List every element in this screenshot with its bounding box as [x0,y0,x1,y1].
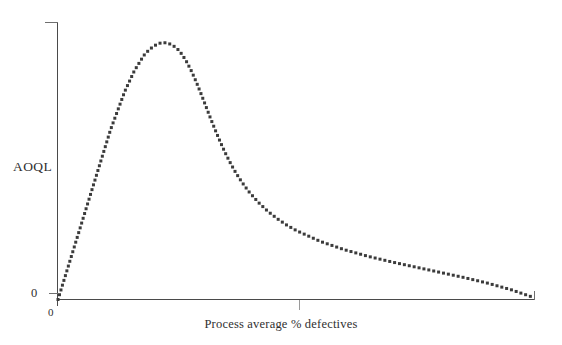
curve-dot [316,239,319,242]
curve-dot [437,271,440,274]
curve-dot [303,233,306,236]
curve-dot [101,155,104,158]
curve-dot [345,249,348,252]
curve-dot [120,98,123,101]
curve-dot [364,254,367,257]
axes-group [45,22,535,310]
curve-dot [307,235,310,238]
curve-dot [196,83,199,86]
curve-dot [74,241,77,244]
curve-dot [432,269,435,272]
curve-dot [104,145,107,148]
curve-dot [146,50,149,53]
curve-dot [335,246,338,249]
curve-dot [135,66,138,69]
curve-dot [192,74,195,77]
curve-dot [126,84,129,87]
curve-dot [393,261,396,264]
curve-dot [128,80,131,83]
curve-dot [112,121,115,124]
curve-dot [98,164,101,167]
curve-dot [224,152,227,155]
curve-dot [65,269,68,272]
curve-dot [85,207,88,210]
curve-dot [349,250,352,253]
curve-dot [115,112,118,115]
curve-dot [340,247,343,250]
curve-dot [248,190,251,193]
curve-dot [519,292,522,295]
curve-dot [96,169,99,172]
curve-dot [107,136,110,139]
curve-dot [80,222,83,225]
curve-dot [289,226,292,229]
curve-dot [119,103,122,106]
curve-dot [486,282,489,285]
curve-dot [61,284,64,287]
curve-dot [187,65,190,68]
curve-dot [374,257,377,260]
curve-dot [245,187,248,190]
curve-dot [285,223,288,226]
chart-canvas: AOQL 0 0 Process average % defectives [0,0,562,345]
aoql-curve-plot [0,0,562,345]
curve-dot [408,264,411,267]
curve-dot [495,284,498,287]
curve-dot [218,139,221,142]
curve-dot [379,258,382,261]
curve-dot [108,131,111,134]
curve-dot [185,60,188,63]
curve-dot [226,157,229,160]
curve-dot [242,182,245,185]
curve-dot [190,69,193,72]
curve-dot [330,244,333,247]
curve-dot [102,150,105,153]
curve-dot [273,215,276,218]
curve-dot [462,276,465,279]
curve-dot [254,198,257,201]
curve-dot [76,236,79,239]
curve-dot [95,174,98,177]
curve-dot [208,115,211,118]
curve-dot [442,272,445,275]
curve-dot [457,275,460,278]
curve-dot [83,212,86,215]
curve-dot [199,92,202,95]
curve-dot [500,286,503,289]
curve-dot [88,198,91,201]
curve-dot [140,58,143,61]
curve-dot [86,202,89,205]
curve-dot [203,101,206,104]
curve-dot [427,268,430,271]
curve-dot [79,226,82,229]
curve-dot [239,178,242,181]
curve-dot [212,125,215,128]
curve-dot [403,263,406,266]
curve-dot [354,251,357,254]
curve-dot [57,298,60,301]
curve-dot [216,134,219,137]
curve-dot [110,126,113,129]
curve-dot [294,228,297,231]
curve-dot [99,159,102,162]
curve-dot [236,174,239,177]
curve-dot [176,48,179,51]
curve-dot [154,44,157,47]
curve-dot [59,288,62,291]
curve-dot [137,62,140,65]
curve-dot [214,129,217,132]
y-axis-label: AOQL [13,160,52,174]
curve-dot [466,277,469,280]
curve-dot [168,42,171,45]
curve-dot [447,273,450,276]
curve-dot [113,117,116,120]
curve-dot [92,183,95,186]
curve-dot [67,265,70,268]
curve-dot [143,53,146,56]
curve-dot [398,262,401,265]
curve-dot [105,140,108,143]
curve-dot [476,279,479,282]
curve-dot [321,241,324,244]
curve-dot [89,193,92,196]
curve-dot [205,106,208,109]
